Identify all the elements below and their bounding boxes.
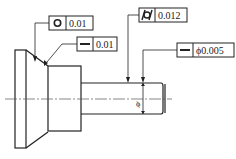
taper-bottom-edge [26,132,48,148]
diameter-symbol: ϕ [134,99,141,109]
technical-drawing: 0.01 0.01 0.012 ϕ0.005 [0,0,236,159]
diameter-dimension: ϕ [134,83,145,114]
leader-straightness-axis [143,50,177,80]
fcf-value-circularity: 0.01 [69,18,87,29]
fcf-value-straightness-axis: ϕ0.005 [196,45,224,56]
fcf-value-straightness-taper: 0.01 [96,39,114,50]
body [48,66,81,131]
shaft [81,83,163,114]
fcf-straightness-axis: ϕ0.005 [141,43,234,83]
fcf-straightness-taper: 0.01 [44,37,117,66]
leader-cylindricity [128,15,139,80]
leader-circularity [35,23,49,60]
fcf-value-cylindricity: 0.012 [158,10,181,21]
leader-straightness-taper [47,44,77,62]
